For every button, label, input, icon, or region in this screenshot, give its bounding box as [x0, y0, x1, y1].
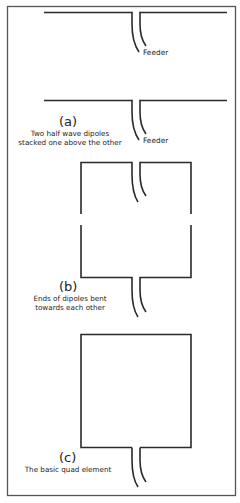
quad-feeder-right	[140, 448, 146, 483]
figure-a-caption-line-1: Two half wave dipoles	[14, 129, 126, 138]
figure-c-letter: (c)	[59, 451, 76, 464]
figure-a-upper-dipole	[44, 13, 227, 53]
upper-dipole-left-arm	[44, 13, 139, 53]
figure-a-letter: (a)	[59, 115, 77, 128]
outer-frame	[8, 7, 236, 496]
quad-loop-left	[81, 335, 191, 448]
figure-c-caption-line-1: The basic quad element	[24, 465, 112, 474]
feeder-label-upper: Feeder	[143, 49, 168, 56]
figure-b-caption: Ends of dipoles bent towards each other	[28, 294, 112, 312]
quad-antenna-diagram	[0, 0, 240, 503]
figure-b-caption-line-1: Ends of dipoles bent	[28, 294, 112, 303]
figure-a-caption: Two half wave dipoles stacked one above …	[14, 129, 126, 147]
upper-dipole-right-arm	[140, 13, 227, 47]
figure-a-caption-line-2: stacked one above the other	[14, 138, 126, 147]
figure-b-letter: (b)	[59, 280, 77, 293]
quad-feeder-left	[132, 448, 138, 488]
figure-c-caption: The basic quad element	[24, 465, 112, 474]
lower-dipole-right-arm	[140, 101, 227, 135]
figure-b-caption-line-2: towards each other	[28, 303, 112, 312]
bent-lower-dipole-right	[140, 225, 191, 312]
feeder-label-lower: Feeder	[143, 137, 168, 144]
bent-upper-dipole-left	[81, 163, 138, 215]
bent-upper-dipole-right	[140, 163, 191, 215]
